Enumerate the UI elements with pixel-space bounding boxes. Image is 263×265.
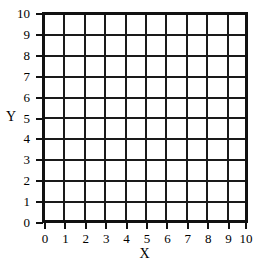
y-axis-tick [36, 13, 43, 15]
x-axis-tick [166, 222, 168, 229]
plot-area [43, 13, 247, 222]
y-axis-title: Y [6, 110, 16, 124]
y-axis-tick [36, 138, 43, 140]
y-axis-tick-label: 3 [4, 153, 30, 166]
y-axis-tick [36, 159, 43, 161]
x-axis-tick-label: 10 [233, 232, 259, 245]
x-axis-tick [146, 222, 148, 229]
y-axis-tick [36, 180, 43, 182]
y-axis-tick [36, 97, 43, 99]
y-axis-tick [36, 55, 43, 57]
x-axis-tick [228, 222, 230, 229]
x-axis-tick [207, 222, 209, 229]
y-axis-tick-label: 4 [4, 132, 30, 145]
x-axis-tick [187, 222, 189, 229]
y-axis-tick-label: 0 [4, 216, 30, 229]
y-axis-tick [36, 76, 43, 78]
y-axis-tick-label: 8 [4, 49, 30, 62]
x-axis-tick [64, 222, 66, 229]
x-axis-tick [105, 222, 107, 229]
plot-frame-border [42, 12, 248, 223]
y-axis-tick [36, 201, 43, 203]
coordinate-grid-figure: 0 1 2 3 4 5 6 7 8 9 10 0 1 2 3 4 5 6 7 8… [0, 0, 263, 265]
y-axis-tick-label: 6 [4, 91, 30, 104]
y-axis-tick-label: 7 [4, 70, 30, 83]
y-axis-tick-label: 10 [4, 7, 30, 20]
x-axis-tick [126, 222, 128, 229]
x-axis-title: X [0, 247, 263, 261]
x-axis-tick [44, 222, 46, 229]
y-axis-tick-label: 1 [4, 195, 30, 208]
y-axis-tick-label: 9 [4, 28, 30, 41]
x-axis-tick [245, 222, 247, 229]
y-axis-tick [36, 222, 43, 224]
y-axis-tick [36, 118, 43, 120]
x-axis-tick [85, 222, 87, 229]
x-axis-title-text: X [139, 246, 149, 261]
y-axis-tick [36, 34, 43, 36]
y-axis-tick-label: 2 [4, 174, 30, 187]
